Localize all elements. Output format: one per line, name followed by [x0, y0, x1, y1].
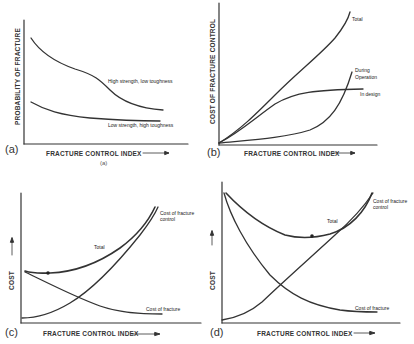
label-high-strength: High strength, low toughness [108, 79, 172, 85]
label-fracture-c: Cost of fracture [146, 307, 180, 313]
x-arrowhead-c [155, 333, 160, 336]
panel-b [219, 3, 377, 155]
label-during-b-2: Operation [355, 75, 377, 81]
curve-fracture-control-d [222, 193, 373, 320]
x-arrowhead-d [370, 332, 375, 335]
label-fracture-control-d-2: control [373, 205, 388, 211]
x-axis-label-a: FRACTURE CONTROL INDEX [46, 150, 142, 157]
label-low-strength: Low strength, high toughness [108, 123, 173, 129]
curve-total-b [219, 12, 350, 143]
panel-label-d: (d) [210, 326, 223, 338]
y-arrowhead-c [11, 238, 14, 243]
label-fracture-control-c-2: control [160, 217, 175, 223]
x-axis-label-b: FRACTURE CONTROL INDEX [244, 150, 340, 157]
panel-a [24, 20, 188, 155]
label-total-d: Total [327, 219, 338, 225]
curve-low-strength [31, 102, 160, 121]
x-arrowhead-a [165, 152, 169, 155]
x-axis-label-c: FRACTURE CONTROL INDEX [43, 330, 139, 337]
label-total-b: Total [352, 17, 363, 23]
y-axis-label-a: PROBABILITY OF FRACTURE [14, 28, 21, 125]
curve-fracture-c [25, 272, 162, 314]
x-arrowhead-b [351, 152, 355, 155]
curve-fracture-control-c [22, 207, 158, 318]
label-in-design-b: In design [360, 92, 380, 98]
label-total-c: Total [94, 245, 105, 251]
minimum-point-c [46, 271, 50, 275]
curve-during-operation [219, 72, 352, 143]
y-axis-label-c: COST [8, 271, 15, 290]
label-fracture-d: Cost of fracture [355, 306, 389, 312]
y-axis-label-d: COST [209, 271, 216, 290]
panel-label-c: (c) [5, 326, 18, 338]
x-axis-label-d: FRACTURE CONTROL INDEX [257, 330, 353, 337]
sub-label-a: (a) [100, 160, 107, 166]
panel-label-a: (a) [5, 143, 18, 155]
y-arrowhead-d [211, 231, 214, 236]
minimum-point-d [310, 234, 314, 238]
curve-fracture-d [224, 193, 377, 312]
curve-high-strength [31, 38, 163, 110]
figure-canvas [0, 0, 414, 344]
y-axis-label-b: COST OF FRACTURE CONTROL [209, 19, 216, 124]
label-during-b-1: During [355, 68, 370, 74]
curve-total-d [226, 193, 372, 238]
panel-label-b: (b) [207, 146, 220, 158]
